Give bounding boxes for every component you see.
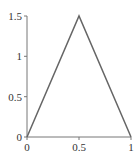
y-tick-label: 1 [17,50,23,62]
chart-svg: 0 0.5 1 1.5 0 0.5 1 [0,0,139,157]
y-axis: 0 0.5 1 1.5 [8,10,27,143]
y-tick-label: 0.5 [8,91,22,103]
triangle-chart: 0 0.5 1 1.5 0 0.5 1 [0,0,139,157]
x-axis: 0 0.5 1 [24,137,134,153]
x-tick-label: 0.5 [72,141,86,153]
y-tick-label: 0 [17,131,23,143]
y-tick-label: 1.5 [8,10,22,22]
triangle-series-line [27,16,131,137]
x-tick-label: 1 [128,141,134,153]
x-tick-label: 0 [24,141,30,153]
